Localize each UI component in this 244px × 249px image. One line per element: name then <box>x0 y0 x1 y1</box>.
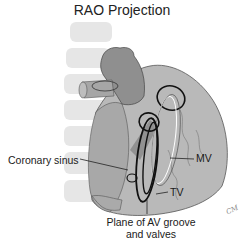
label-coronary-sinus: Coronary sinus <box>8 154 79 166</box>
svc <box>79 80 118 98</box>
label-av-plane-line2: and valves <box>96 228 206 240</box>
label-av-plane: Plane of AV groove and valves <box>96 216 206 240</box>
heart-illustration <box>0 0 244 249</box>
label-mitral-valve: MV <box>196 152 212 164</box>
label-av-plane-line1: Plane of AV groove <box>96 216 206 228</box>
label-tricuspid-valve: TV <box>170 186 183 198</box>
